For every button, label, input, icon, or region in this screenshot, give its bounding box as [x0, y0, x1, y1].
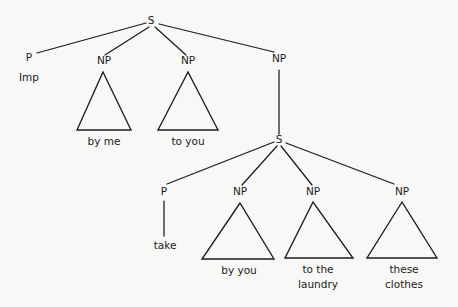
edge-top-s-to-p: [37, 23, 146, 53]
edge-top-s-to-np3: [159, 24, 274, 52]
tree-canvas: S P Imp NP NP NP by me to you S P NP NP …: [0, 0, 458, 307]
node-label-np-4: NP: [233, 185, 247, 197]
leaf-label-imp: Imp: [19, 71, 39, 83]
edge-embedded-s-to-np5: [281, 146, 312, 185]
node-label-s-top: S: [148, 14, 155, 26]
node-label-p-embedded: P: [161, 185, 167, 197]
triangle-to-you: [158, 72, 218, 130]
triangle-to-the-laundry: [285, 202, 353, 258]
triangle-these-clothes: [367, 202, 437, 258]
leaf-label-to-you: to you: [171, 135, 204, 147]
edge-embedded-s-to-p: [167, 142, 274, 184]
leaf-label-by-you: by you: [221, 264, 257, 276]
node-label-s-embedded: S: [276, 133, 283, 145]
node-label-np-3: NP: [272, 52, 286, 64]
node-label-np-5: NP: [306, 185, 320, 197]
edge-top-s-to-np2: [155, 27, 186, 55]
syntax-tree-diagram: S P Imp NP NP NP by me to you S P NP NP …: [0, 0, 458, 307]
leaf-label-by-me: by me: [88, 135, 121, 147]
triangle-by-me: [77, 72, 131, 130]
leaf-label-take: take: [154, 239, 177, 251]
triangle-by-you: [202, 203, 274, 259]
node-label-np-2: NP: [181, 54, 195, 66]
edge-top-s-to-np1: [105, 27, 149, 55]
leaf-label-clothes: clothes: [385, 278, 423, 290]
node-label-np-1: NP: [97, 54, 111, 66]
leaf-label-laundry: laundry: [298, 278, 338, 290]
leaf-label-these: these: [389, 263, 418, 275]
edge-embedded-s-to-np6: [286, 143, 394, 184]
leaf-label-to-the: to the: [302, 263, 333, 275]
node-label-np-6: NP: [395, 185, 409, 197]
node-label-p-top: P: [26, 51, 32, 63]
